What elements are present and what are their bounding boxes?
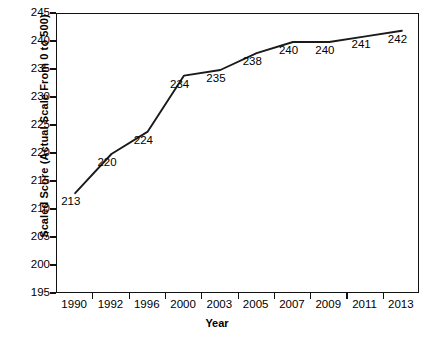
y-tick-label: 225: [6, 119, 50, 130]
y-axis-tick-labels: 195200205210215220225230235240245: [0, 0, 50, 338]
data-point-label: 240: [279, 44, 298, 56]
y-tick-label: 235: [6, 63, 50, 74]
x-tick-label: 2013: [378, 298, 424, 310]
plot-area: [56, 13, 419, 293]
data-point-label: 234: [170, 78, 189, 90]
data-point-label: 235: [206, 72, 225, 84]
y-tick-label: 205: [6, 231, 50, 242]
data-point-label: 238: [243, 55, 262, 67]
data-point-label: 240: [315, 44, 334, 56]
data-point-label: 241: [352, 38, 371, 50]
series-line: [75, 31, 402, 193]
data-line-svg: [57, 14, 420, 294]
y-tick-label: 240: [6, 35, 50, 46]
y-tick-label: 215: [6, 175, 50, 186]
y-tick-label: 210: [6, 203, 50, 214]
line-chart: Scaled Score (Actual Scale From 0 to 500…: [0, 0, 434, 338]
y-tick-label: 245: [6, 7, 50, 18]
y-tick-label: 195: [6, 287, 50, 298]
data-point-label: 213: [61, 195, 80, 207]
x-axis-title: Year: [0, 317, 434, 329]
y-tick-label: 220: [6, 147, 50, 158]
data-point-label: 220: [97, 156, 116, 168]
data-point-label: 242: [388, 33, 407, 45]
y-tick-label: 230: [6, 91, 50, 102]
data-point-label: 224: [134, 134, 153, 146]
y-tick-label: 200: [6, 259, 50, 270]
